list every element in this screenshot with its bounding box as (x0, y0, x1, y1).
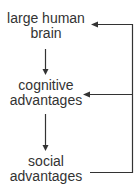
arrowhead-down-icon (43, 69, 49, 75)
feedback-loop-line (90, 25, 133, 173)
diagram-connectors (0, 0, 138, 191)
arrowhead-left-icon (83, 92, 90, 98)
arrowhead-down-icon (43, 145, 49, 151)
arrowhead-left-icon (91, 22, 98, 28)
